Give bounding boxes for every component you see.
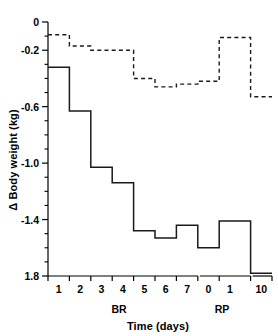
step-chart: Δ Body weight (kg) Time (days) BR RP 0-0… [0,0,278,336]
data-series [48,35,272,273]
y-tick-label: -0.6 [21,101,39,113]
x-tick-label: 1 [227,283,233,295]
x-tick-label: 2 [77,283,83,295]
chart-figure: Δ Body weight (kg) Time (days) BR RP 0-0… [0,0,278,336]
y-tick-label: 1.8 [24,270,39,282]
tick-labels: 0-0.2-0.6-1.0-1.41.812345670110 [21,16,267,295]
x-tick-label: 5 [141,283,147,295]
y-tick-label: -1.0 [21,157,39,169]
series-dashed [48,35,272,97]
x-tick-label: 1 [56,283,62,295]
x-group-label-br: BR [111,303,127,315]
axes [42,22,272,281]
x-tick-label: 10 [255,283,267,295]
y-axis-title: Δ Body weight (kg) [7,109,19,211]
y-tick-label: 0 [33,16,39,28]
y-tick-label: -1.4 [21,214,39,226]
x-tick-label: 3 [99,283,105,295]
x-tick-label: 0 [206,283,212,295]
x-tick-label: 4 [120,283,126,295]
x-group-label-rp: RP [215,303,230,315]
x-tick-label: 7 [184,283,190,295]
series-solid [48,67,272,273]
x-tick-label: 6 [163,283,169,295]
x-axis-title: Time (days) [127,320,189,332]
y-tick-label: -0.2 [21,44,39,56]
